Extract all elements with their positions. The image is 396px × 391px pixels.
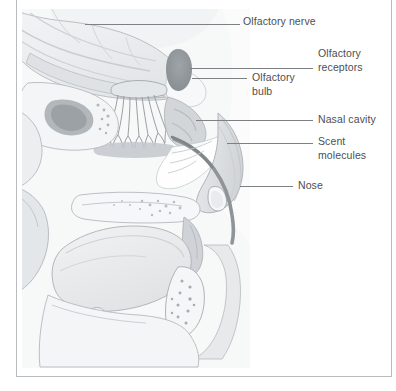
- label-olfactory-bulb-line-1: Olfactory: [252, 71, 295, 85]
- label-nose: Nose: [298, 179, 323, 193]
- label-nasal-cavity-line-1: Nasal cavity: [318, 113, 376, 127]
- label-olfactory-nerve-line-1: Olfactory nerve: [243, 15, 316, 29]
- label-scent-molecules-line-1: Scent: [318, 135, 366, 149]
- label-olfactory-receptors-line-2: receptors: [318, 61, 363, 75]
- label-olfactory-bulb-line-2: bulb: [252, 85, 295, 99]
- label-scent-molecules: Scent molecules: [318, 135, 366, 162]
- leader-line-olfactory-receptors: [190, 68, 313, 69]
- leader-line-nose: [240, 186, 293, 187]
- label-scent-molecules-line-2: molecules: [318, 149, 366, 163]
- label-olfactory-receptors-line-1: Olfactory: [318, 47, 363, 61]
- hard-palate: [72, 192, 201, 223]
- leader-line-olfactory-nerve: [85, 24, 240, 25]
- leader-line-olfactory-bulb: [192, 78, 247, 79]
- label-olfactory-bulb: Olfactory bulb: [252, 71, 295, 98]
- leader-line-nasal-cavity: [196, 120, 313, 121]
- anatomy-illustration: [22, 9, 250, 368]
- label-olfactory-nerve: Olfactory nerve: [243, 15, 316, 29]
- leader-line-scent-molecules: [227, 143, 313, 144]
- olfactory-diagram-figure: Olfactory nerve Olfactory receptors Olfa…: [0, 0, 396, 391]
- label-nasal-cavity: Nasal cavity: [318, 113, 376, 127]
- label-nose-line-1: Nose: [298, 179, 323, 193]
- label-olfactory-receptors: Olfactory receptors: [318, 47, 363, 74]
- olfactory-bulb-structure: [111, 81, 167, 99]
